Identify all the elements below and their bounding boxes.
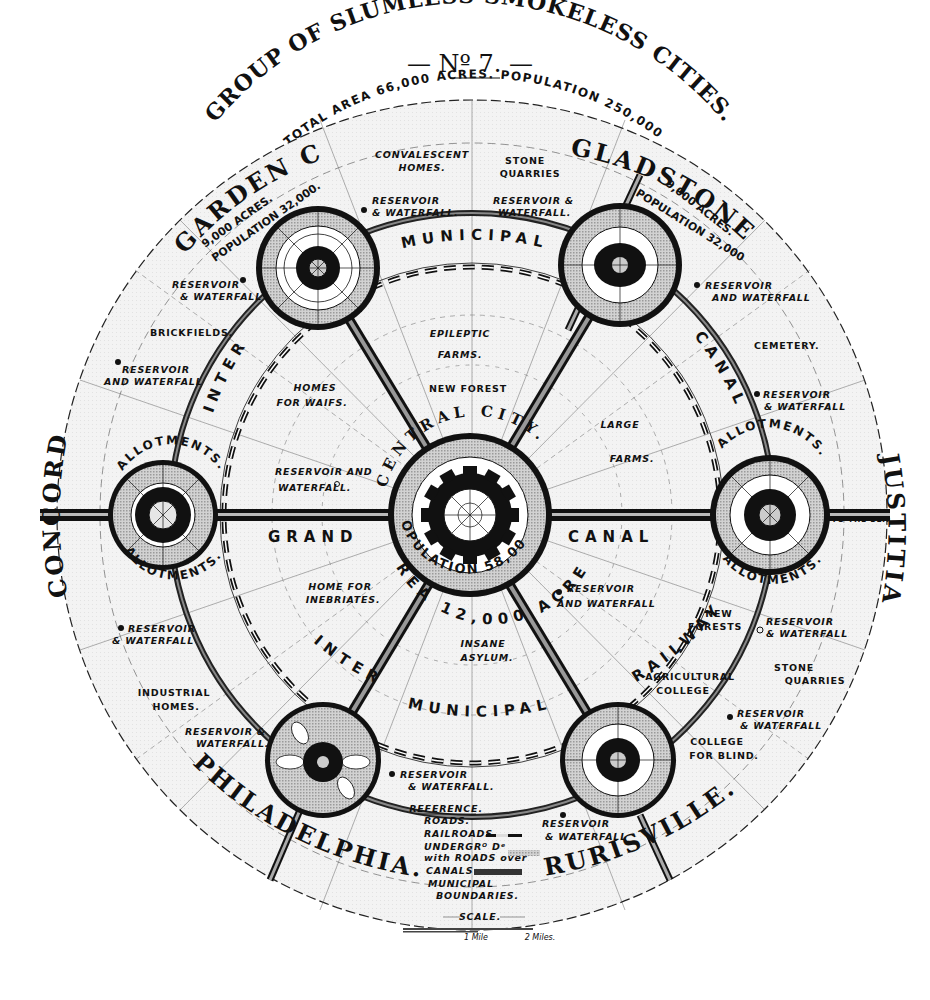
svg-text:RESERVOIR: RESERVOIR (400, 769, 468, 780)
reservoir-icon (556, 589, 562, 595)
svg-text:RESERVOIR: RESERVOIR (737, 708, 805, 719)
svg-text:HOMES.: HOMES. (152, 701, 199, 712)
svg-text:RESERVOIR: RESERVOIR (763, 389, 831, 400)
svg-text:& WATERFALL: & WATERFALL (740, 720, 822, 731)
svg-text:RESERVOIR: RESERVOIR (372, 195, 440, 206)
scale-mark-2: 2 Miles. (525, 933, 556, 942)
reservoir-icon (118, 625, 124, 631)
svg-text:RESERVOIR: RESERVOIR (172, 279, 240, 290)
svg-text:WATERFALL.: WATERFALL. (498, 207, 571, 218)
legend-boundaries: BOUNDARIES. (436, 890, 519, 901)
svg-text:& WATERFALL.: & WATERFALL. (408, 781, 494, 792)
railroad-swatch (486, 834, 522, 837)
svg-text:INSANE: INSANE (461, 638, 506, 649)
svg-text:RESERVOIR: RESERVOIR (542, 818, 610, 829)
svg-text:FARMS.: FARMS. (610, 453, 655, 464)
svg-text:INEBRIATES.: INEBRIATES. (306, 594, 381, 605)
legend-underground: UNDERGRᴼ Dᵉ (424, 841, 506, 852)
svg-text:INDUSTRIAL: INDUSTRIAL (138, 687, 211, 698)
label-to-the-sea: TO THE SEA (832, 515, 890, 524)
svg-text:CONVALESCENT: CONVALESCENT (375, 149, 470, 160)
svg-text:ASYLUM.: ASYLUM. (460, 652, 514, 663)
svg-text:NEW: NEW (705, 608, 732, 619)
svg-text:STONE: STONE (505, 155, 545, 166)
svg-text:& WATERFALL: & WATERFALL (764, 401, 846, 412)
svg-text:CEMETERY.: CEMETERY. (754, 340, 819, 351)
svg-text:HOMES.: HOMES. (398, 162, 445, 173)
legend-municipal: MUNICIPAL (428, 878, 494, 889)
svg-text:& WATERFALL.: & WATERFALL. (372, 207, 458, 218)
svg-text:FOR WAIFS.: FOR WAIFS. (276, 397, 347, 408)
reservoir-icon (727, 714, 733, 720)
svg-text:FOR BLIND.: FOR BLIND. (689, 750, 758, 761)
svg-text:RESERVOIR AND: RESERVOIR AND (275, 466, 372, 477)
svg-text:COLLEGE: COLLEGE (656, 685, 710, 696)
legend-railroads: RAILROADS. (424, 828, 497, 839)
svg-text:& WATERFALL: & WATERFALL (545, 831, 627, 842)
legend-roads: ROADS. (424, 815, 470, 826)
scale-title: SCALE. (459, 911, 501, 922)
svg-text:AND WATERFALL: AND WATERFALL (103, 376, 203, 387)
svg-text:LARGE: LARGE (600, 419, 639, 430)
svg-text:BRICKFIELDS.: BRICKFIELDS. (150, 327, 233, 338)
label-grand: GRAND (268, 528, 358, 546)
underground-swatch (508, 850, 540, 856)
reservoir-icon (389, 771, 395, 777)
svg-text:RESERVOIR: RESERVOIR (128, 623, 196, 634)
svg-text:& WATERFALL: & WATERFALL (112, 635, 194, 646)
reservoir-icon (240, 277, 246, 283)
svg-text:HOMES: HOMES (294, 382, 337, 393)
satellite-city-rurisville (560, 702, 676, 818)
svg-text:AND WATERFALL: AND WATERFALL (556, 598, 656, 609)
svg-text:NEW FOREST: NEW FOREST (429, 383, 507, 394)
legend-canals: CANALS (426, 865, 473, 876)
svg-text:QUARRIES: QUARRIES (500, 168, 561, 179)
reservoir-icon (754, 391, 760, 397)
svg-text:& WATERFALL: & WATERFALL (180, 291, 262, 302)
svg-text:QUARRIES: QUARRIES (785, 675, 846, 686)
garden-city-diagram: — Nº 7. — GROUP OF SLUMLESS SMOKELESS CI… (0, 0, 930, 1000)
svg-text:& WATERFALL: & WATERFALL (766, 628, 848, 639)
satellite-city-philadelphia (265, 702, 381, 818)
label-canal-east: CANAL (568, 528, 654, 546)
svg-text:AGRICULTURAL: AGRICULTURAL (645, 671, 735, 682)
svg-text:RESERVOIR &: RESERVOIR & (493, 195, 574, 206)
reservoir-icon (115, 359, 121, 365)
svg-text:COLLEGE: COLLEGE (690, 736, 744, 747)
svg-text:FARMS.: FARMS. (438, 349, 483, 360)
svg-text:HOME FOR: HOME FOR (308, 581, 372, 592)
satellite-city-gladstone (558, 203, 682, 327)
scale-mark-1: 1 Mile (464, 933, 488, 942)
canal-swatch (474, 869, 522, 875)
satellite-city-garden-city (256, 206, 380, 330)
svg-text:AND WATERFALL: AND WATERFALL (711, 292, 811, 303)
svg-text:WATERFALL.: WATERFALL. (196, 738, 269, 749)
svg-text:RESERVOIR: RESERVOIR (705, 280, 773, 291)
svg-text:WATERFALL.: WATERFALL. (278, 482, 351, 493)
svg-text:FORESTS: FORESTS (688, 621, 742, 632)
svg-text:RESERVOIR: RESERVOIR (766, 616, 834, 627)
legend-title: REFERENCE. (409, 803, 483, 814)
svg-text:STONE: STONE (774, 662, 814, 673)
reservoir-icon (694, 282, 700, 288)
svg-text:EPILEPTIC: EPILEPTIC (430, 328, 491, 339)
svg-text:RESERVOIR: RESERVOIR (122, 364, 190, 375)
svg-text:RESERVOIR: RESERVOIR (567, 583, 635, 594)
reservoir-icon (361, 207, 367, 213)
svg-text:RESERVOIR &: RESERVOIR & (185, 726, 266, 737)
